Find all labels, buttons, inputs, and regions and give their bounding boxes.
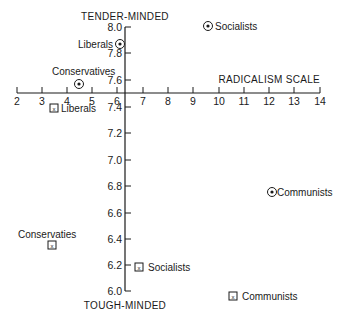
y-tick-label: 8.0 [107,21,122,33]
point-label: Communists [242,291,298,302]
box-marker-liberals: x Liberals [50,103,96,114]
y-tick-label: 6.4 [107,233,122,245]
y-tick-label: 7.0 [107,154,122,166]
svg-text:x: x [51,243,54,249]
x-axis-title: RADICALISM SCALE [219,74,321,85]
point-label: Socialists [215,21,257,32]
x-tick-label: 11 [239,95,250,107]
point-label: Communists [277,187,333,198]
circle-marker-communists: Communists [268,187,333,198]
point-label: Liberals [78,39,113,50]
svg-text:x: x [53,106,56,112]
x-tick-label: 13 [288,95,300,107]
circle-marker-conservatives: Conservatives [52,66,115,89]
box-marker-socialists: x Socialists [135,262,190,273]
x-tick-label: 14 [314,95,326,107]
y-axis-bottom-title: TOUGH-MINDED [84,300,166,311]
svg-text:x: x [232,294,235,300]
circle-marker-socialists: Socialists [204,21,258,32]
svg-text:x: x [138,265,141,271]
y-tick-label: 6.8 [107,180,122,192]
y-ticks [125,27,131,291]
y-tick-label: 6.2 [107,259,122,271]
box-marker-conservaties: x Conservaties [18,229,76,249]
x-tick-label: 2 [14,95,20,107]
x-tick-label: 7 [140,95,146,107]
x-tick-label: 3 [39,95,45,107]
political-attitudes-scatter-chart: 2 3 4 5 6 7 8 9 10 11 12 13 14 8.0 7.8 7… [0,0,340,318]
x-tick-label: 9 [190,95,196,107]
y-axis-top-title: TENDER-MINDED [81,11,169,22]
x-tick-label: 8 [165,95,171,107]
x-ticks [17,87,320,93]
point-label: Socialists [148,262,190,273]
y-tick-label: 7.2 [107,127,122,139]
x-tick-label: 10 [213,95,225,107]
y-tick-label: 6.6 [107,207,122,219]
y-tick-labels: 8.0 7.8 7.6 7.4 7.2 7.0 6.8 6.6 6.4 6.2 … [107,21,122,297]
point-label: Liberals [61,103,96,114]
point-label: Conservatives [52,66,115,77]
y-tick-label: 6.0 [107,285,122,297]
x-tick-label: 12 [263,95,275,107]
y-tick-label: 7.4 [107,101,122,113]
point-label: Conservaties [18,229,76,240]
box-marker-communists: x Communists [229,291,298,302]
